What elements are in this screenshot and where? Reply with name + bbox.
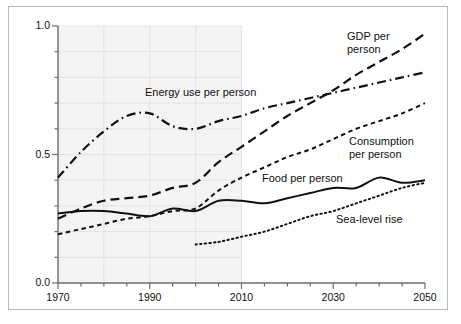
x-tick-label: 2010 — [226, 291, 258, 303]
y-tick-label: 1.0 — [18, 19, 50, 31]
x-tick-label: 1970 — [42, 291, 74, 303]
y-tick-label: 0.0 — [18, 276, 50, 288]
series-label-energy-use-per-person: Energy use per person — [145, 86, 256, 99]
series-label-consumption-per-person: Consumptionper person — [349, 135, 414, 161]
series-label-sea-level-rise: Sea-level rise — [336, 213, 403, 226]
x-tick-label: 2050 — [409, 291, 441, 303]
series-label-gdp-per-person: GDP perperson — [347, 30, 390, 56]
y-tick-label: 0.5 — [18, 148, 50, 160]
x-tick-label: 1990 — [134, 291, 166, 303]
x-tick-label: 2030 — [317, 291, 349, 303]
series-label-food-per-person: Food per person — [262, 172, 343, 185]
line-chart — [0, 0, 461, 324]
